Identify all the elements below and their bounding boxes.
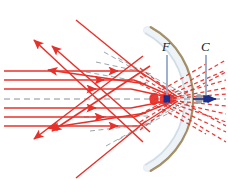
focal-point-pointer [164, 55, 171, 103]
marginal-ray [52, 66, 150, 131]
marginal-ray [48, 70, 146, 84]
figure-canvas: F C [0, 0, 228, 179]
caustic-blob [149, 93, 158, 105]
center-of-curvature-label: C [201, 40, 210, 53]
focal-point-label: F [162, 40, 170, 53]
center-of-curvature-marker [203, 95, 209, 102]
optics-diagram [0, 0, 228, 179]
focal-point-marker [164, 95, 171, 102]
